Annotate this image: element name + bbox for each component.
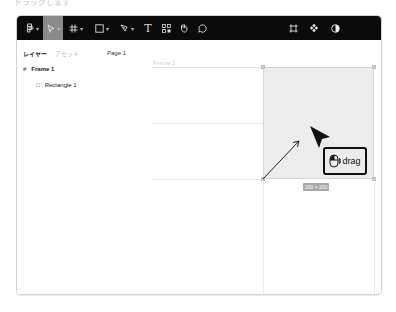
move-tool-button[interactable]: ▾ [43, 16, 63, 40]
toolbar: ▾ ▾ ▾ ▾ ▾ T [17, 16, 381, 40]
caption-text: ドラッグします [14, 0, 70, 10]
guide-line [152, 123, 263, 124]
crop-icon [289, 24, 298, 33]
sidebar-tabs: レイヤー アセット Page 1 [23, 47, 141, 59]
mouse-cursor-icon [309, 125, 331, 149]
comment-icon [198, 24, 207, 33]
component-icon [309, 23, 319, 33]
guide-line [152, 179, 263, 180]
page-selector[interactable]: Page 1 [107, 50, 126, 56]
chevron-down-icon: ▾ [106, 25, 109, 32]
cursor-icon [47, 24, 55, 33]
resize-handle[interactable] [372, 177, 376, 181]
layer-item-frame[interactable]: # Frame 1 [23, 66, 54, 72]
text-tool-button[interactable]: T [139, 16, 157, 40]
comment-tool-button[interactable] [193, 16, 211, 40]
mouse-click-icon [329, 154, 341, 168]
guide-line-vertical [263, 179, 264, 295]
crop-button[interactable] [285, 16, 301, 40]
drag-hint-badge: drag [323, 147, 367, 175]
hand-tool-button[interactable] [175, 16, 193, 40]
rectangle-icon: □ [36, 82, 40, 88]
contrast-icon [331, 24, 340, 33]
figma-window: ▾ ▾ ▾ ▾ ▾ T [16, 15, 382, 295]
contrast-toggle-button[interactable] [327, 16, 343, 40]
drag-hint-label: drag [342, 156, 360, 166]
chevron-down-icon: ▾ [131, 25, 134, 32]
resize-handle[interactable] [261, 65, 265, 69]
hand-icon [179, 23, 189, 33]
figma-logo-icon [26, 23, 34, 33]
shape-tool-button[interactable]: ▾ [89, 16, 115, 40]
chevron-down-icon: ▾ [36, 25, 39, 32]
layer-label: Rectangle 1 [45, 82, 77, 88]
guide-line-vertical [374, 179, 375, 295]
resources-button[interactable] [157, 16, 175, 40]
layers-sidebar: レイヤー アセット Page 1 # Frame 1 □ Rectangle 1 [17, 40, 141, 294]
pen-tool-button[interactable]: ▾ [115, 16, 139, 40]
size-badge: 200 × 200 [303, 183, 329, 191]
frame-top-edge [152, 67, 263, 68]
text-icon: T [144, 22, 151, 35]
frame-label[interactable]: Frame 1 [153, 60, 175, 66]
layer-label: Frame 1 [31, 66, 54, 72]
rectangle-icon [95, 24, 104, 33]
drag-direction-arrow-icon [261, 135, 306, 181]
layer-item-rectangle[interactable]: □ Rectangle 1 [36, 82, 77, 88]
frame-tool-button[interactable]: ▾ [63, 16, 89, 40]
chevron-down-icon: ▾ [80, 25, 83, 32]
resources-icon [162, 24, 171, 33]
frame-hash-icon: # [23, 66, 26, 72]
tab-assets[interactable]: アセット [55, 49, 79, 58]
resize-handle[interactable] [372, 65, 376, 69]
tab-layers[interactable]: レイヤー [23, 49, 47, 58]
chevron-down-icon: ▾ [57, 25, 60, 32]
main-menu-button[interactable]: ▾ [21, 16, 43, 40]
design-canvas[interactable]: Frame 1 drag 200 × 200 [141, 40, 381, 294]
pen-icon [120, 24, 129, 33]
frame-hash-icon [69, 24, 78, 33]
component-button[interactable] [306, 16, 322, 40]
